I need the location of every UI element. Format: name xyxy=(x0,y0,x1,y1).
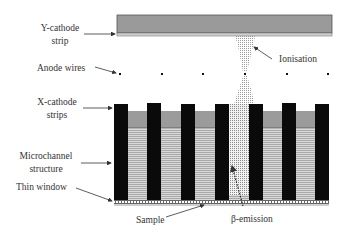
label-x-cathode-2: strips xyxy=(47,110,68,120)
anode-wire xyxy=(244,73,246,75)
label-x-cathode: X-cathode xyxy=(37,97,77,107)
pillar xyxy=(181,104,195,200)
anode-wires xyxy=(119,73,329,75)
label-microchannel-2: structure xyxy=(29,164,62,174)
detector-diagram: Y-cathode strip Anode wires Ionisation X… xyxy=(0,0,344,239)
label-anode-wires: Anode wires xyxy=(37,63,86,73)
pillar xyxy=(147,103,161,200)
label-y-cathode-2: strip xyxy=(52,36,69,46)
label-y-cathode: Y-cathode xyxy=(41,23,80,33)
pillar xyxy=(282,103,296,200)
label-sample: Sample xyxy=(136,215,165,225)
label-microchannel: Microchannel xyxy=(20,151,73,161)
anode-wire xyxy=(327,73,329,75)
sample-layer xyxy=(114,204,329,206)
pillar xyxy=(249,104,263,200)
label-thin-window: Thin window xyxy=(16,182,67,192)
pillar xyxy=(114,104,128,200)
anode-wire xyxy=(202,73,204,75)
y-cathode-strip xyxy=(117,15,332,36)
anode-wire xyxy=(286,73,288,75)
label-beta-emission: β-emission xyxy=(231,214,273,224)
anode-wire xyxy=(119,73,121,75)
active-channel xyxy=(229,104,249,195)
anode-wire xyxy=(161,73,163,75)
ionisation-cloud xyxy=(234,36,255,104)
thin-window xyxy=(114,200,329,204)
pillar xyxy=(215,104,229,200)
microchannel-structure xyxy=(114,103,329,200)
pillar xyxy=(315,104,329,200)
label-ionisation: Ionisation xyxy=(279,54,317,64)
